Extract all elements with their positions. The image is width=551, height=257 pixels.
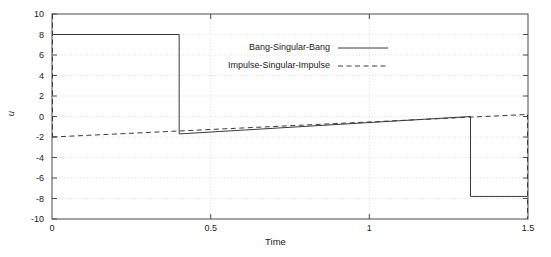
xtick-label-0: 0 xyxy=(49,223,54,233)
xtick-label-0.5: 0.5 xyxy=(204,223,217,233)
ytick-label-6: 6 xyxy=(20,50,44,60)
y-axis-label: u xyxy=(5,111,16,116)
ytick-label-neg4: -4 xyxy=(20,153,44,163)
legend-entry-bang-singular-bang: Bang-Singular-Bang xyxy=(249,42,330,52)
plot-canvas xyxy=(0,0,551,257)
ytick-label-8: 8 xyxy=(20,30,44,40)
legend-entry-impulse-singular-impulse: Impulse-Singular-Impulse xyxy=(228,60,330,70)
ytick-label-10: 10 xyxy=(20,9,44,19)
chart-figure: 10 8 6 4 2 0 -2 -4 -6 -8 -10 0 0.5 1 1.5… xyxy=(0,0,551,257)
ytick-label-neg2: -2 xyxy=(20,132,44,142)
ytick-label-neg8: -8 xyxy=(20,194,44,204)
ytick-label-4: 4 xyxy=(20,71,44,81)
series-bang-singular-bang xyxy=(53,35,528,197)
ytick-label-neg6: -6 xyxy=(20,173,44,183)
ytick-label-0: 0 xyxy=(20,112,44,122)
x-axis-label: Time xyxy=(0,236,551,247)
xtick-label-1.5: 1.5 xyxy=(522,223,535,233)
xtick-label-1: 1 xyxy=(367,223,372,233)
ytick-label-2: 2 xyxy=(20,91,44,101)
ytick-label-neg10: -10 xyxy=(20,214,44,224)
